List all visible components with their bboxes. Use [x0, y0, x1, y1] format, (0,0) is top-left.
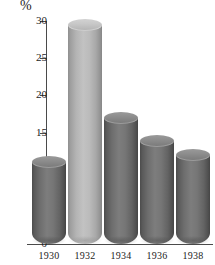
x-axis-tick-label: 1934 [101, 250, 141, 262]
bar-cylinder [104, 118, 138, 244]
bar-base-shadow [140, 236, 174, 245]
bar-base-shadow [104, 236, 138, 245]
bar-cylinder [140, 141, 174, 244]
y-axis-tick-label: 25 [11, 52, 47, 63]
bar-top-cap [176, 149, 210, 161]
bar-top-cap [32, 156, 66, 168]
cylinder-bar-chart: % 051015202530 19301932193419361938 [0, 0, 215, 265]
x-axis-tick-label: 1938 [173, 250, 213, 262]
bar-body [176, 155, 210, 244]
x-axis-tick-label: 1930 [29, 250, 69, 262]
bar-body [68, 25, 102, 244]
bar-cylinder [68, 25, 102, 244]
y-axis-tick: 15 [0, 133, 47, 134]
y-axis-tick: 30 [0, 21, 47, 22]
y-axis-tick: 25 [0, 58, 47, 59]
plot-area: 051015202530 19301932193419361938 [0, 0, 215, 265]
y-axis-tick: 20 [0, 95, 47, 96]
y-axis-tick-label: 30 [11, 15, 47, 26]
bar-cylinder [32, 162, 66, 244]
bar-top-cap [140, 135, 174, 147]
bar-body [32, 162, 66, 244]
bar-base-shadow [68, 236, 102, 245]
x-axis-tick-label: 1932 [65, 250, 105, 262]
bar-body [140, 141, 174, 244]
bar-top-cap [104, 112, 138, 124]
bar-cylinder [176, 155, 210, 244]
bar-base-shadow [176, 236, 210, 245]
x-axis-tick-label: 1936 [137, 250, 177, 262]
y-axis-tick-label: 20 [11, 89, 47, 100]
y-axis-tick-label: 15 [11, 127, 47, 138]
bar-base-shadow [32, 236, 66, 245]
bar-body [104, 118, 138, 244]
bar-top-cap [68, 19, 102, 31]
